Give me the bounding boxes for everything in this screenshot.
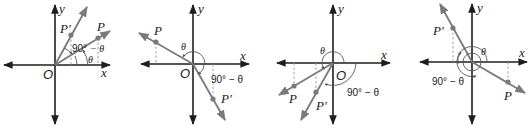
panel-quadrant-1: P′ P 90° − θ θ O x y: [4, 1, 110, 124]
label-theta: θ: [181, 41, 186, 52]
point-P-prime: [450, 25, 455, 30]
label-y: y: [196, 1, 204, 16]
label-theta: θ: [88, 54, 93, 65]
point-P-prime: [210, 96, 215, 101]
label-x: x: [100, 65, 107, 80]
label-x: x: [239, 48, 246, 63]
label-P-prime: P′: [59, 21, 71, 36]
label-theta: θ: [481, 46, 486, 57]
panel-quadrant-2: P P′ θ 90° − θ O x y: [139, 1, 249, 124]
label-P: P: [96, 19, 105, 34]
diagram-canvas: P′ P 90° − θ θ O x y P P′ θ 90° − θ O x …: [0, 0, 528, 130]
panel-quadrant-3: P P′ θ 90° − θ O x y: [277, 1, 390, 124]
label-y: y: [57, 1, 65, 16]
point-P: [291, 83, 296, 88]
label-90: 90°: [72, 43, 87, 54]
label-origin: O: [180, 66, 190, 81]
label-y: y: [475, 0, 483, 15]
label-theta: θ: [320, 45, 325, 56]
arc-theta: [183, 52, 205, 64]
point-P: [153, 39, 158, 44]
ray-OP-prime: [440, 4, 472, 62]
panel-quadrant-4: P′ P θ 90° − θ x y: [420, 0, 527, 124]
label-complement: 90° − θ: [432, 76, 465, 87]
label-minus-theta: − θ: [90, 43, 104, 54]
label-P: P: [153, 23, 162, 38]
point-P: [95, 35, 100, 40]
label-x: x: [380, 47, 387, 62]
label-P-prime: P′: [315, 98, 327, 113]
label-y: y: [336, 1, 344, 16]
arc-complement: [198, 64, 204, 74]
figure-quadrant-reflections: P′ P 90° − θ θ O x y P P′ θ 90° − θ O x …: [0, 0, 528, 130]
label-P-prime: P′: [220, 91, 232, 106]
label-complement: 90° − θ: [211, 74, 244, 85]
label-origin: O: [336, 68, 346, 83]
point-P: [505, 79, 510, 84]
label-P: P: [288, 91, 297, 106]
label-P-prime: P′: [432, 23, 444, 38]
label-origin: O: [43, 67, 53, 82]
label-P: P: [503, 88, 512, 103]
label-x: x: [518, 45, 525, 60]
label-complement: 90° − θ: [347, 87, 380, 98]
point-P-prime: [313, 89, 318, 94]
arc-theta-inner: [75, 56, 77, 65]
